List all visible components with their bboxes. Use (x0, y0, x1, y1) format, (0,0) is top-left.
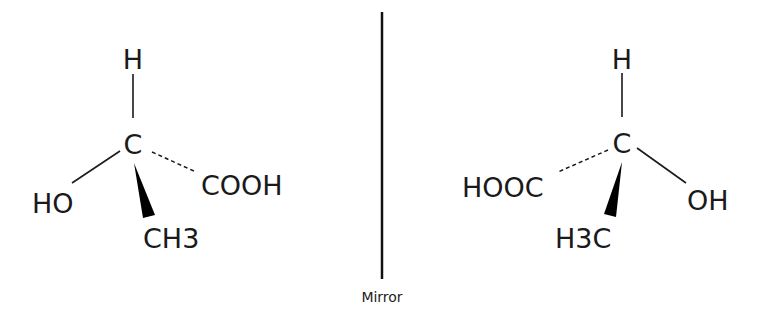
left-molecule: H C HO COOH CH3 (32, 44, 283, 254)
right-methyl-c: C (593, 223, 612, 254)
mirror-label: Mirror (361, 289, 402, 305)
right-molecule: H C HOOC OH H3C (462, 44, 729, 254)
left-hydroxyl-bond (72, 151, 120, 183)
left-hydroxyl-group: HO (32, 188, 74, 219)
left-methyl-group: CH3 (143, 223, 199, 254)
left-methyl-subscript: 3 (182, 223, 199, 254)
right-hydroxyl-bond (637, 148, 686, 183)
left-carboxyl-group: COOH (201, 170, 283, 201)
right-carboxyl-dashed-bond (558, 150, 608, 172)
left-methyl-wedge-bond (134, 163, 155, 218)
left-center-atom: C (124, 129, 143, 160)
right-methyl-wedge-bond (604, 162, 622, 217)
left-top-atom: H (123, 44, 143, 75)
right-methyl-subscript: 3 (575, 223, 592, 254)
mirror-plane: Mirror (361, 12, 402, 305)
left-carboxyl-dashed-bond (152, 152, 196, 172)
right-methyl-group: H3C (555, 223, 611, 254)
right-carboxyl-group: HOOC (462, 172, 544, 203)
enantiomer-diagram: H C HO COOH CH3 Mirror H C HOOC OH H3C (0, 0, 758, 321)
right-center-atom: C (613, 128, 632, 159)
left-methyl-main: CH (143, 223, 182, 254)
right-methyl-h: H (555, 223, 575, 254)
right-top-atom: H (612, 44, 632, 75)
right-hydroxyl-group: OH (687, 185, 729, 216)
